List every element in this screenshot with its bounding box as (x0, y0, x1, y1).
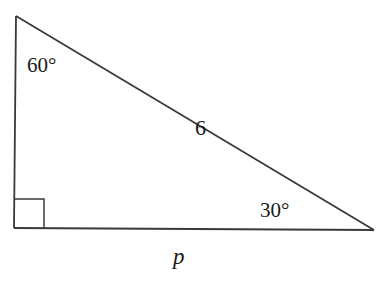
hypotenuse-label: 6 (195, 115, 206, 140)
base-label: p (171, 244, 185, 269)
top-angle-label: 60° (27, 53, 56, 77)
bottom-right-angle-label: 30° (260, 198, 289, 222)
right-angle-marker (14, 199, 44, 228)
base-line (14, 228, 374, 230)
vertical-leg (14, 16, 16, 228)
right-triangle-diagram: 60° 6 30° p (0, 0, 382, 281)
